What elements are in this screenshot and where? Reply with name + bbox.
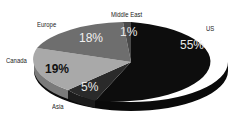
label-asia: Asia bbox=[52, 103, 64, 110]
pct-us: 55% bbox=[180, 38, 204, 52]
label-us: US bbox=[206, 25, 214, 32]
pie-chart bbox=[0, 0, 237, 124]
pct-asia: 5% bbox=[81, 80, 98, 94]
pct-canada: 19% bbox=[45, 62, 69, 76]
label-canada: Canada bbox=[6, 57, 27, 64]
label-middle-east: Middle East bbox=[111, 11, 142, 18]
label-europe: Europe bbox=[37, 21, 56, 28]
pct-europe: 18% bbox=[79, 31, 103, 45]
pct-middle-east: 1% bbox=[120, 25, 137, 39]
